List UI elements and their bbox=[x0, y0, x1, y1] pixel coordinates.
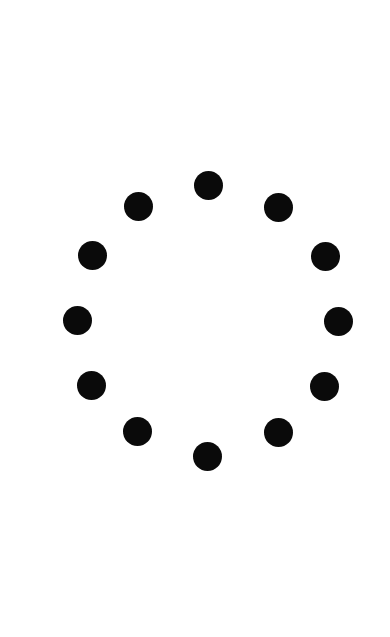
spinner-dot bbox=[194, 171, 223, 200]
spinner-dot bbox=[311, 242, 340, 271]
spinner-dot bbox=[77, 371, 106, 400]
spinner-dot bbox=[124, 192, 153, 221]
loading-spinner-icon bbox=[0, 0, 390, 637]
loading-screen bbox=[0, 0, 390, 637]
spinner-dot bbox=[264, 418, 293, 447]
spinner-dot bbox=[324, 307, 353, 336]
spinner-dot bbox=[123, 417, 152, 446]
spinner-dot bbox=[193, 442, 222, 471]
spinner-dot bbox=[78, 241, 107, 270]
spinner-dot bbox=[63, 306, 92, 335]
spinner-dot bbox=[264, 193, 293, 222]
spinner-dot bbox=[310, 372, 339, 401]
